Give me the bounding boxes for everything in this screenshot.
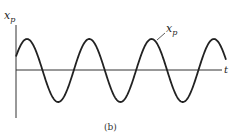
y-axis-label: xp <box>4 9 15 24</box>
figure-caption: (b) <box>104 122 117 132</box>
curve-label-leader <box>157 33 165 40</box>
curve-label: xp <box>166 22 177 37</box>
oscillation-diagram: xp xp t (b) <box>0 0 237 139</box>
x-axis-label: t <box>224 64 229 75</box>
